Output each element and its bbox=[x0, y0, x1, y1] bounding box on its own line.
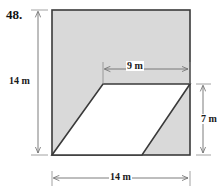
dimension-label-bottom: 14 m bbox=[109, 172, 132, 182]
figure-canvas bbox=[0, 0, 222, 193]
geometry-figure: 48. 14 m 9 m 7 m 1 bbox=[0, 0, 222, 193]
dimension-label-right: 7 m bbox=[200, 114, 218, 124]
dimension-label-top: 9 m bbox=[126, 61, 144, 71]
dimension-label-left: 14 m bbox=[8, 76, 31, 86]
